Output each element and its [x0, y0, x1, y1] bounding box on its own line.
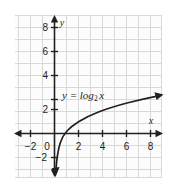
x-tick-label-2: 2 — [76, 141, 82, 152]
equation-label-arg: x — [98, 89, 104, 101]
equation-label-lhs: y = log — [61, 89, 94, 101]
x-axis-label: x — [148, 115, 154, 126]
y-tick-label-2: 2 — [42, 104, 48, 115]
y-tick-label-8: 8 — [42, 22, 48, 33]
x-tick-label-0: 0 — [44, 141, 50, 152]
x-tick-label-6: 6 — [124, 141, 130, 152]
graph-canvas: −2 0 2 4 6 8 −2 2 4 6 8 x y y = log2x — [0, 0, 176, 192]
y-tick-label-neg2: −2 — [36, 152, 48, 163]
y-tick-label-6: 6 — [42, 46, 48, 57]
y-tick-label-4: 4 — [42, 70, 48, 81]
x-tick-label-8: 8 — [148, 141, 154, 152]
logarithmic-function-graph-figure: −2 0 2 4 6 8 −2 2 4 6 8 x y y = log2x — [0, 0, 176, 192]
y-axis-label: y — [59, 17, 65, 28]
x-tick-label-4: 4 — [100, 141, 106, 152]
x-tick-label-neg2: −2 — [25, 141, 37, 152]
equation-label-base: 2 — [94, 94, 98, 103]
